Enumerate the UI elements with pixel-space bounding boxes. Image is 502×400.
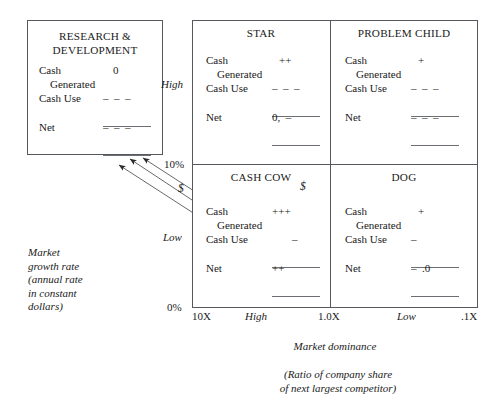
rd-row-cash-generated: Cash 0 [39,64,153,78]
pc-row-cash-generated-cont: Generated [345,68,470,82]
dog-rule-2 [411,296,459,297]
y-axis-label-low: Low [163,231,182,243]
dog-cash-generated-label: Cash [345,205,367,217]
star-row-cash-generated: Cash ++ [206,54,326,68]
dog-cash-use-value: – [411,233,417,245]
star-row-cash-use: Cash Use – – – [206,82,326,101]
dog-row-cash-generated-cont: Generated [345,219,470,233]
rd-cash-generated-value: 0 [113,64,119,76]
star-row-net: Net 0, – [206,111,326,130]
dog-financials: Cash + Generated Cash Use – Net – .0 [345,205,470,271]
pc-net-label: Net [345,111,361,123]
rd-cash-use-value: – – – [103,92,131,104]
rd-cash-generated-label: Cash [39,64,61,76]
dollar-label-left: $ [178,182,184,194]
pc-cash-generated-label2: Generated [356,68,401,80]
pc-rule-2 [411,145,459,146]
x-axis-tick-low-label: Low [397,310,416,322]
x-axis-title: Market dominance [255,340,415,354]
x-axis-caption: (Ratio of company share of next largest … [248,368,428,395]
bcg-growth-share-matrix-figure: { "rd_box": { "title": "RESEARCH &\nDEVE… [0,0,502,400]
cc-row-cash-generated-cont: Generated [206,219,326,233]
rd-row-cash-use: Cash Use – – – [39,92,153,111]
rd-net-value: – – – [103,121,131,133]
rd-cash-generated-label2: Generated [50,78,95,90]
cash-cow-financials: Cash +++ Generated Cash Use – Net ++ [206,205,326,271]
x-axis-tick-low: Low [397,310,416,322]
pc-net-value: – – – [411,111,439,123]
x-axis-tick-point1x: .1X [461,310,477,322]
matrix-horizontal-divider [192,164,478,165]
dollar-label-right: $ [300,180,306,192]
rd-row-cash-generated-cont: Generated [39,78,153,92]
cc-row-cash-use: Cash Use – [206,233,326,252]
problem-child-financials: Cash + Generated Cash Use – – – Net – – … [345,54,470,120]
star-net-label: Net [206,111,222,123]
research-and-development-box: RESEARCH & DEVELOPMENT Cash 0 Generated … [27,20,163,155]
pc-row-cash-generated: Cash + [345,54,470,68]
x-axis-tick-high: High [245,310,267,322]
dog-net-label: Net [345,262,361,274]
rd-net-label: Net [39,121,55,133]
cc-net-value: ++ [272,262,284,274]
pc-cash-use-value: – – – [411,82,439,94]
star-cash-generated-label: Cash [206,54,228,66]
quadrant-title-problem-child: PROBLEM CHILD [330,27,478,39]
dog-row-cash-generated: Cash + [345,205,470,219]
star-cash-use-value: – – – [272,82,300,94]
dog-cash-generated-label2: Generated [356,219,401,231]
y-axis-label-10pct: 10% [164,158,184,170]
pc-row-cash-use: Cash Use – – – [345,82,470,101]
star-net-value: 0, – [272,111,291,123]
pc-row-net: Net – – – [345,111,470,130]
pc-cash-generated-value: + [418,54,424,66]
y-axis-label-0pct: 0% [167,301,182,313]
star-cash-use-label: Cash Use [206,82,248,94]
star-financials: Cash ++ Generated Cash Use – – – Net 0, … [206,54,326,120]
quadrant-title-star: STAR [192,27,330,39]
cc-cash-generated-label2: Generated [217,219,262,231]
x-axis-tick-1-0x-label: 1.0X [318,310,340,322]
rd-title: RESEARCH & DEVELOPMENT [28,21,162,57]
x-axis-tick-point1x-label: .1X [461,310,477,322]
dog-row-cash-use: Cash Use – [345,233,470,252]
cc-cash-use-label: Cash Use [206,233,248,245]
star-cash-generated-value: ++ [279,54,291,66]
rd-rule-2 [103,155,151,156]
x-axis-tick-high-label: High [245,310,267,322]
x-axis-tick-10x: 10X [192,310,211,322]
rd-row-net: Net – – – [39,121,153,140]
rd-cash-use-label: Cash Use [39,92,81,104]
quadrant-title-dog: DOG [330,171,478,183]
pc-cash-generated-label: Cash [345,54,367,66]
cc-cash-use-value: – [292,233,298,245]
pc-cash-use-label: Cash Use [345,82,387,94]
dog-row-net: Net – .0 [345,262,470,281]
y-axis-label-high: High [161,78,183,90]
cc-rule-2 [272,296,320,297]
quadrant-title-cash-cow: CASH COW [192,171,330,183]
cc-row-net: Net ++ [206,262,326,281]
dog-cash-generated-value: + [418,205,424,217]
star-row-cash-generated-cont: Generated [206,68,326,82]
y-axis-caption: Market growth rate (annual rate in const… [28,246,138,314]
star-rule-2 [272,145,320,146]
x-axis-tick-1-0x: 1.0X [318,310,340,322]
dog-cash-use-label: Cash Use [345,233,387,245]
cc-net-label: Net [206,262,222,274]
star-cash-generated-label2: Generated [217,68,262,80]
cc-row-cash-generated: Cash +++ [206,205,326,219]
rd-financials: Cash 0 Generated Cash Use – – – Net – – … [39,64,153,130]
cc-cash-generated-value: +++ [272,205,291,217]
x-axis-tick-10x-label: 10X [192,310,211,322]
dog-net-value: – .0 [411,262,430,274]
cc-cash-generated-label: Cash [206,205,228,217]
